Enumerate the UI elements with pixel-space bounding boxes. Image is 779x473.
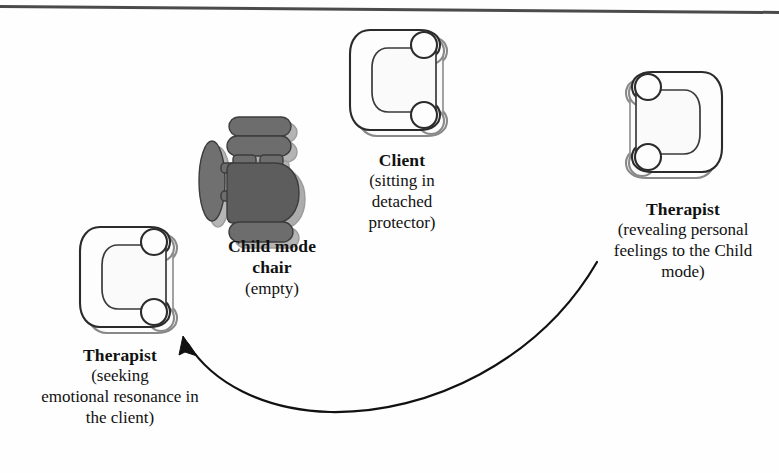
client-label: Client	[322, 150, 482, 171]
therapist-left-label: Therapist	[4, 345, 236, 366]
therapist-left-sub-line-3: the client)	[4, 408, 236, 429]
therapist-left-chair	[80, 227, 177, 333]
client-chair	[350, 30, 447, 136]
therapist-left-sub-line-1: (seeking	[4, 366, 236, 387]
therapist-right-sub-line-3: mode)	[586, 262, 779, 283]
child-mode-sub-line-1: (empty)	[182, 279, 362, 300]
child-mode-label-line-1: Child mode	[182, 236, 362, 257]
child-mode-label-line-2: chair	[182, 257, 362, 278]
therapist-right-caption: Therapist (revealing personal feelings t…	[586, 199, 779, 283]
diagram-canvas: .chair-outer { fill: #fdfdfd; stroke: #2…	[0, 0, 779, 473]
scan-edge-line	[0, 5, 779, 14]
client-sub-line-3: protector)	[322, 213, 482, 234]
therapist-right-sub-line-2: feelings to the Child	[586, 241, 779, 262]
client-sub-line-2: detached	[322, 192, 482, 213]
therapist-right-chair	[626, 72, 722, 178]
therapist-left-sub-line-2: emotional resonance in	[4, 387, 236, 408]
therapist-right-sub-line-1: (revealing personal	[586, 220, 779, 241]
therapist-left-caption: Therapist (seeking emotional resonance i…	[4, 345, 236, 429]
therapist-right-label: Therapist	[586, 199, 779, 220]
child-mode-chair	[199, 117, 305, 248]
child-mode-caption: Child mode chair (empty)	[182, 236, 362, 299]
client-sub-line-1: (sitting in	[322, 171, 482, 192]
client-caption: Client (sitting in detached protector)	[322, 150, 482, 234]
